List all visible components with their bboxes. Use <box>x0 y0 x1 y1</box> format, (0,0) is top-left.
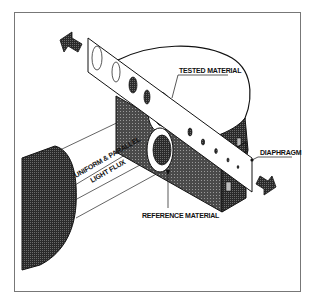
light-source <box>22 146 76 270</box>
label-reference-material: REFERENCE MATERIAL <box>142 212 220 219</box>
arrow-right-icon <box>256 176 276 195</box>
photometer-diagram: TESTED MATERIAL DIAPHRAGM REFERENCE MATE… <box>0 0 316 300</box>
label-diaphragm: DIAPHRAGM <box>260 149 302 156</box>
label-tested-material: TESTED MATERIAL <box>179 67 242 74</box>
reference-material-sample <box>153 135 171 165</box>
arrow-left-icon <box>60 32 82 52</box>
